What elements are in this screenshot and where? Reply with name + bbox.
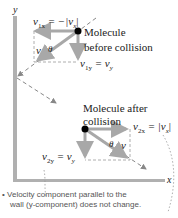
after-title-2: collision xyxy=(83,116,121,127)
after-title-1: Molecule after xyxy=(83,103,147,114)
v1-arrow xyxy=(38,31,78,60)
v2-arrow xyxy=(85,129,126,157)
trajectory-out xyxy=(17,78,56,103)
theta1-label: θ xyxy=(48,45,52,54)
v2-label: v xyxy=(121,140,126,151)
v2y-label: v2y = vy xyxy=(42,151,75,165)
y-axis-label: y xyxy=(13,5,17,15)
v1-label: v xyxy=(36,45,41,56)
before-title-1: Molecule xyxy=(84,27,126,38)
x-axis xyxy=(13,179,165,182)
v2x-label: v2x = |vx| xyxy=(133,121,171,135)
before-title-2: before collision xyxy=(84,42,153,53)
x-axis-label: x xyxy=(167,175,171,185)
v1y-label: v1y = vy xyxy=(80,58,113,72)
wall-y-axis xyxy=(13,16,17,182)
theta2-label: θ xyxy=(109,140,113,149)
v1x-label: v1x = −|vx| xyxy=(33,16,78,30)
caption: • Velocity component parallel to the wal… xyxy=(2,190,178,210)
